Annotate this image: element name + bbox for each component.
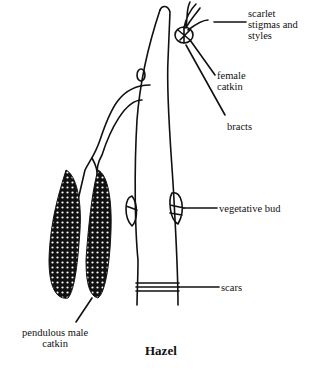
male-catkin-left — [49, 170, 80, 298]
label-scars: scars — [221, 282, 242, 293]
label-bracts: bracts — [227, 121, 252, 132]
stigmas — [184, 2, 208, 30]
male-catkin-right — [86, 170, 111, 298]
diagram-caption: Hazel — [145, 343, 177, 359]
vegetative-bud-right — [170, 193, 184, 224]
label-pendulous-male-catkin: pendulous male catkin — [22, 327, 88, 349]
main-stem — [160, 6, 178, 305]
label-female-catkin: female catkin — [217, 70, 246, 92]
hazel-twig-illustration — [0, 0, 317, 375]
label-stigmas-and-styles: scarlet stigmas and styles — [248, 8, 298, 41]
scars — [136, 283, 179, 291]
label-vegetative-bud: vegetative bud — [219, 203, 281, 214]
